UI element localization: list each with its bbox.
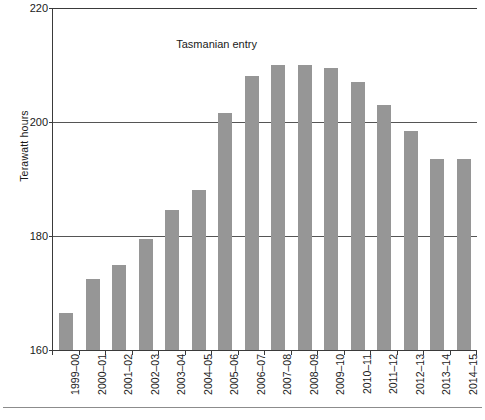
y-tick-label-220: 220 [30, 2, 48, 14]
x-tick-label-2000–01: 2000–01 [96, 354, 108, 412]
x-tick-label-2001–02: 2001–02 [122, 354, 134, 412]
x-tick-label-2008–09: 2008–09 [308, 354, 320, 412]
bar-2012–13 [404, 131, 418, 350]
bars-group [53, 8, 477, 350]
x-tick-label-2006–07: 2006–07 [255, 354, 267, 412]
figure-caption [4, 410, 474, 420]
bar-2000–01 [86, 279, 100, 350]
bar-2003–04 [165, 210, 179, 350]
bar-2008–09 [298, 65, 312, 350]
x-tick-label-2014–15: 2014–15 [467, 354, 479, 412]
y-tick-label-200: 200 [30, 116, 48, 128]
x-tick-label-2007–08: 2007–08 [281, 354, 293, 412]
bar-2007–08 [271, 65, 285, 350]
x-tick-label-2005–06: 2005–06 [228, 354, 240, 412]
bar-2004–05 [192, 190, 206, 350]
x-tick-label-1999–00: 1999–00 [69, 354, 81, 412]
x-tick-label-2003–04: 2003–04 [175, 354, 187, 412]
x-tick-label-2004–05: 2004–05 [202, 354, 214, 412]
bar-2006–07 [245, 76, 259, 350]
annotation-tasmanian-entry: Tasmanian entry [176, 38, 257, 50]
x-tick-label-2013–14: 2013–14 [440, 354, 452, 412]
x-tick-label-2002–03: 2002–03 [149, 354, 161, 412]
x-tick-mark-0 [52, 350, 53, 355]
caption-divider [3, 407, 482, 408]
bar-2011–12 [377, 105, 391, 350]
figure-bar-chart: Terawatt hours 160180200220 Tasmanian en… [0, 0, 485, 420]
bar-2010–11 [351, 82, 365, 350]
x-tick-label-2010–11: 2010–11 [361, 354, 373, 412]
plot-area: 160180200220 Tasmanian entry [52, 8, 476, 350]
bar-2013–14 [430, 159, 444, 350]
bar-1999–00 [59, 313, 73, 350]
y-tick-label-160: 160 [30, 344, 48, 356]
bar-2005–06 [218, 113, 232, 350]
x-tick-label-2011–12: 2011–12 [387, 354, 399, 412]
x-tick-label-2012–13: 2012–13 [414, 354, 426, 412]
y-tick-label-180: 180 [30, 230, 48, 242]
y-axis-title: Terawatt hours [18, 76, 30, 216]
bar-2009–10 [324, 68, 338, 350]
bar-2014–15 [457, 159, 471, 350]
bar-2001–02 [112, 265, 126, 351]
bar-2002–03 [139, 239, 153, 350]
x-tick-label-2009–10: 2009–10 [334, 354, 346, 412]
